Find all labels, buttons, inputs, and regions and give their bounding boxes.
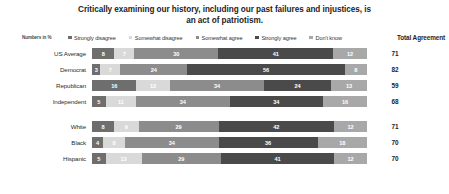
bar-segment: 12 [334, 121, 367, 132]
bar-segment: 18 [318, 137, 368, 148]
bar-segment: 34 [230, 96, 324, 107]
chart-row: Black4834361870 [22, 137, 449, 148]
legend-swatch-icon [309, 36, 313, 40]
bar-segment: 29 [142, 153, 222, 164]
bar-segment: 9 [114, 121, 139, 132]
row-category-label: White [22, 123, 92, 130]
row-category-label: Independent [22, 98, 92, 105]
row-total-agreement: 82 [367, 66, 423, 73]
bar-segment: 4 [92, 137, 103, 148]
bar-segment: 34 [136, 96, 230, 107]
group-separator [22, 112, 449, 121]
bar-segment: 42 [219, 121, 335, 132]
legend-swatch-icon [255, 36, 259, 40]
bar-segment: 41 [218, 48, 333, 59]
chart-row: Republican161234241359 [22, 80, 449, 91]
legend-item-label: Somewhat agree [202, 35, 243, 41]
bar-segment: 16 [92, 80, 136, 91]
stacked-bar: 513294112 [92, 153, 367, 164]
bar-segment: 13 [331, 80, 367, 91]
bar-segment: 34 [170, 80, 264, 91]
bar-segment: 34 [125, 137, 219, 148]
legend-item-label: Don't know [315, 35, 342, 41]
legend-row: Numbers in % Strongly disagreeSomewhat d… [0, 32, 449, 43]
row-total-agreement: 68 [367, 98, 423, 105]
bar-segment: 3 [92, 64, 100, 75]
bar-segment: 11 [106, 96, 136, 107]
chart-title: Critically examining our history, includ… [75, 5, 375, 26]
stacked-bar: 87304112 [92, 48, 367, 59]
bar-segment: 13 [106, 153, 142, 164]
row-category-label: Hispanic [22, 155, 92, 162]
numbers-in-percent-note: Numbers in % [22, 35, 68, 40]
stacked-bar: 48343618 [92, 137, 367, 148]
row-total-agreement: 71 [367, 50, 423, 57]
legend-swatch-icon [68, 36, 72, 40]
bar-segment: 41 [221, 153, 334, 164]
row-category-label: US Average [22, 50, 92, 57]
bar-segment: 12 [136, 80, 169, 91]
legend: Strongly disagreeSomewhat disagreeSomewh… [68, 35, 393, 41]
stacked-bar: 1612342413 [92, 80, 367, 91]
legend-item-0[interactable]: Strongly disagree [68, 35, 116, 41]
bar-segment: 5 [92, 96, 106, 107]
row-total-agreement: 70 [367, 139, 423, 146]
bar-segment: 30 [134, 48, 218, 59]
bar-segment: 29 [139, 121, 219, 132]
chart-row: Independent51134341668 [22, 96, 449, 107]
bar-segment: 36 [219, 137, 318, 148]
row-category-label: Republican [22, 82, 92, 89]
legend-item-4[interactable]: Don't know [309, 35, 342, 41]
row-total-agreement: 70 [367, 155, 423, 162]
chart-row: Democrat372456882 [22, 64, 449, 75]
legend-swatch-icon [129, 36, 133, 40]
legend-item-label: Strongly agree [261, 35, 296, 41]
bar-segment: 24 [264, 80, 331, 91]
row-category-label: Democrat [22, 66, 92, 73]
bar-segment: 7 [100, 64, 120, 75]
total-agreement-header: Total Agreement [393, 34, 449, 41]
stacked-bar: 89294212 [92, 121, 367, 132]
row-category-label: Black [22, 139, 92, 146]
legend-item-label: Strongly disagree [74, 35, 116, 41]
bar-segment: 8 [345, 64, 367, 75]
chart-container: Critically examining our history, includ… [0, 5, 449, 194]
stacked-bar: 3724568 [92, 64, 367, 75]
row-total-agreement: 59 [367, 82, 423, 89]
chart-row: White8929421271 [22, 121, 449, 132]
legend-item-label: Somewhat disagree [135, 35, 183, 41]
bar-segment: 56 [187, 64, 344, 75]
bar-segment: 7 [114, 48, 134, 59]
bar-segment: 8 [92, 121, 114, 132]
bar-segment: 12 [333, 48, 367, 59]
bar-segment: 5 [92, 153, 106, 164]
legend-item-3[interactable]: Strongly agree [255, 35, 296, 41]
legend-item-2[interactable]: Somewhat agree [196, 35, 243, 41]
chart-row: US Average8730411271 [22, 48, 449, 59]
legend-item-1[interactable]: Somewhat disagree [129, 35, 183, 41]
stacked-bar: 511343416 [92, 96, 367, 107]
bar-segment: 24 [120, 64, 187, 75]
bar-segment: 8 [92, 48, 114, 59]
chart-row: Hispanic51329411270 [22, 153, 449, 164]
bar-segment: 8 [103, 137, 125, 148]
chart-rows: US Average8730411271Democrat372456882Rep… [0, 48, 449, 164]
legend-swatch-icon [196, 36, 200, 40]
row-total-agreement: 71 [367, 123, 423, 130]
bar-segment: 12 [334, 153, 367, 164]
bar-segment: 16 [323, 96, 367, 107]
